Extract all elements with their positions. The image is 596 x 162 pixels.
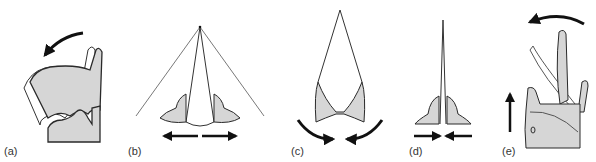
panel-e <box>510 16 588 148</box>
cricoid-cartilage-e <box>525 88 580 149</box>
panel-label-a: (a) <box>4 145 17 157</box>
panel-label-e: (e) <box>502 145 515 157</box>
rotate-inward-right-arrow-icon <box>347 120 382 139</box>
panel-a <box>24 33 102 142</box>
right-arytenoid <box>214 94 240 123</box>
panel-b <box>136 26 264 136</box>
rotation-arrow-icon <box>45 33 83 55</box>
larynx-mechanics-diagram <box>0 0 596 162</box>
panel-label-b: (b) <box>128 145 141 157</box>
thyroid-rotation-arrow-icon <box>530 16 584 24</box>
rotate-inward-left-arrow-icon <box>298 120 333 139</box>
left-arytenoid <box>160 94 186 123</box>
panel-c <box>298 10 382 139</box>
panel-label-c: (c) <box>291 145 304 157</box>
panel-label-d: (d) <box>409 145 422 157</box>
panel-d <box>414 20 472 136</box>
